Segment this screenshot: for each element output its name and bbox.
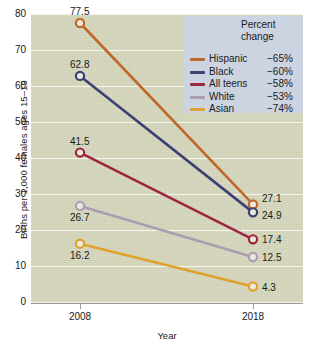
x-tick-label-2018: 2018 — [223, 311, 283, 322]
legend-percent-change-hispanic: −65% — [267, 53, 293, 65]
data-point-asian-2008 — [76, 240, 84, 248]
legend-row-group: Hispanic−65%Black−60%All teens−58%White−… — [184, 53, 303, 116]
legend-swatch-asian — [190, 108, 205, 111]
legend-percent-change-asian: −74% — [267, 103, 293, 115]
legend-row-asian: Asian−74% — [184, 103, 303, 115]
legend-header: Percent change — [241, 19, 297, 42]
data-point-white-2008 — [76, 202, 84, 210]
value-label-hispanic-2018: 27.1 — [262, 194, 281, 204]
value-label-asian-2008: 16.2 — [70, 251, 89, 261]
legend-label-all-teens: All teens — [209, 78, 247, 90]
x-axis-title: Year — [31, 330, 303, 341]
legend-label-hispanic: Hispanic — [209, 53, 247, 65]
data-point-all-teens-2018 — [249, 235, 257, 243]
legend-row-black: Black−60% — [184, 66, 303, 78]
data-point-hispanic-2008 — [76, 19, 84, 27]
legend-label-white: White — [209, 91, 235, 103]
value-label-all-teens-2008: 41.5 — [70, 137, 89, 147]
value-label-black-2018: 24.9 — [262, 211, 281, 221]
value-label-white-2008: 26.7 — [70, 213, 89, 223]
legend-swatch-all-teens — [190, 83, 205, 86]
value-label-white-2018: 12.5 — [262, 253, 281, 263]
legend-percent-change-white: −53% — [267, 91, 293, 103]
data-point-black-2008 — [76, 72, 84, 80]
legend-row-hispanic: Hispanic−65% — [184, 53, 303, 65]
value-label-black-2008: 62.8 — [70, 60, 89, 70]
teen-birth-rate-line-chart: Births per 1,000 females ages 15–19 0102… — [0, 0, 313, 348]
legend-label-black: Black — [209, 66, 233, 78]
legend: Percent change Hispanic−65%Black−60%All … — [184, 16, 303, 113]
data-point-white-2018 — [249, 253, 257, 261]
legend-label-asian: Asian — [209, 103, 234, 115]
data-point-black-2018 — [249, 208, 257, 216]
legend-percent-change-black: −60% — [267, 66, 293, 78]
legend-percent-change-all-teens: −58% — [267, 78, 293, 90]
legend-header-line1: Percent — [241, 19, 297, 31]
value-label-asian-2018: 4.3 — [262, 283, 276, 293]
data-point-all-teens-2008 — [76, 149, 84, 157]
legend-swatch-white — [190, 96, 205, 99]
x-tick-mark-2018 — [253, 303, 254, 309]
value-label-hispanic-2008: 77.5 — [70, 7, 89, 17]
x-tick-label-2008: 2008 — [50, 311, 110, 322]
x-tick-mark-2008 — [80, 303, 81, 309]
value-label-all-teens-2018: 17.4 — [262, 235, 281, 245]
data-point-asian-2018 — [249, 282, 257, 290]
series-line-all-teens — [80, 153, 253, 240]
legend-header-line2: change — [241, 31, 297, 43]
legend-swatch-black — [190, 71, 205, 74]
legend-row-all-teens: All teens−58% — [184, 78, 303, 90]
legend-swatch-hispanic — [190, 58, 205, 61]
legend-row-white: White−53% — [184, 91, 303, 103]
x-axis-line — [31, 303, 303, 304]
